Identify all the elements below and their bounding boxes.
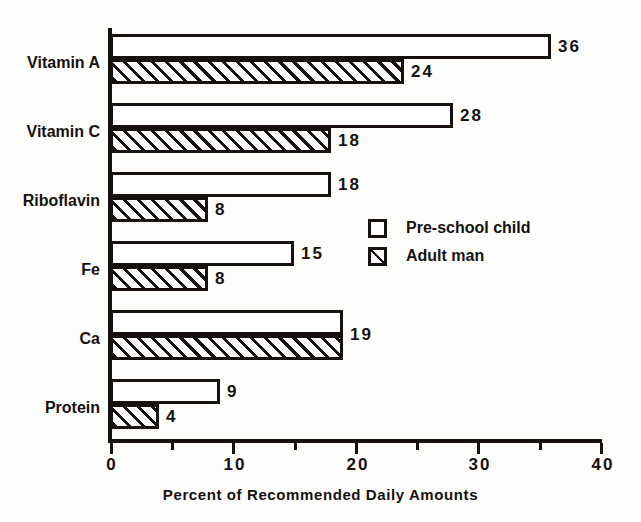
chart-legend: Pre-school child Adult man xyxy=(368,214,530,270)
legend-label-adult-man: Adult man xyxy=(406,247,484,265)
x-tick-major-40 xyxy=(600,443,603,454)
x-axis-title: Percent of Recommended Daily Amounts xyxy=(0,486,641,503)
x-tick-label-20: 20 xyxy=(347,455,370,475)
bar-ca-adult-man xyxy=(110,335,343,360)
bar-value-vitamin-a-adult-man: 24 xyxy=(411,62,434,82)
y-category-label-vitamin-a: Vitamin A xyxy=(27,54,100,72)
bar-value-protein-pre-school-child: 9 xyxy=(227,382,238,402)
x-tick-major-10 xyxy=(232,443,235,454)
y-category-label-fe: Fe xyxy=(81,261,100,279)
bar-riboflavin-adult-man xyxy=(110,197,208,222)
bar-vitamin-a-pre-school-child xyxy=(110,34,551,59)
bar-chart-plot: 0 10 20 30 40 Vitamin A Vitamin C Ribofl… xyxy=(0,0,641,522)
bar-value-fe-pre-school-child: 15 xyxy=(301,244,324,264)
bar-value-riboflavin-pre-school-child: 18 xyxy=(338,175,361,195)
bar-value-riboflavin-adult-man: 8 xyxy=(215,200,226,220)
bar-value-ca-shared: 19 xyxy=(350,325,373,345)
x-tick-major-30 xyxy=(477,443,480,454)
x-tick-label-0: 0 xyxy=(106,455,117,475)
x-tick-minor-25 xyxy=(416,443,419,450)
x-tick-minor-35 xyxy=(539,443,542,450)
hatched-square-icon xyxy=(368,247,387,266)
bar-value-vitamin-c-adult-man: 18 xyxy=(338,131,361,151)
bar-protein-adult-man xyxy=(110,404,159,429)
x-tick-minor-15 xyxy=(294,443,297,450)
bar-fe-pre-school-child xyxy=(110,241,294,266)
bar-value-vitamin-a-pre-school-child: 36 xyxy=(558,37,581,57)
legend-label-pre-school-child: Pre-school child xyxy=(406,219,530,237)
bar-protein-pre-school-child xyxy=(110,379,220,404)
legend-item-pre-school-child: Pre-school child xyxy=(368,214,530,242)
x-tick-major-20 xyxy=(355,443,358,454)
x-tick-label-30: 30 xyxy=(469,455,492,475)
y-category-label-protein: Protein xyxy=(45,399,100,417)
bar-vitamin-a-adult-man xyxy=(110,59,404,84)
bar-vitamin-c-adult-man xyxy=(110,128,331,153)
x-tick-label-40: 40 xyxy=(592,455,615,475)
y-category-label-ca: Ca xyxy=(80,330,100,348)
y-category-label-riboflavin: Riboflavin xyxy=(23,192,100,210)
x-tick-label-10: 10 xyxy=(224,455,247,475)
bar-vitamin-c-pre-school-child xyxy=(110,103,453,128)
bar-ca-pre-school-child xyxy=(110,310,343,335)
x-tick-major-0 xyxy=(110,443,113,454)
bar-fe-adult-man xyxy=(110,266,208,291)
bar-value-protein-adult-man: 4 xyxy=(166,407,177,427)
x-tick-minor-5 xyxy=(171,443,174,450)
bar-value-fe-adult-man: 8 xyxy=(215,269,226,289)
open-square-icon xyxy=(368,219,387,238)
chart-page: 0 10 20 30 40 Vitamin A Vitamin C Ribofl… xyxy=(0,0,641,522)
bar-riboflavin-pre-school-child xyxy=(110,172,331,197)
y-category-label-vitamin-c: Vitamin C xyxy=(27,123,101,141)
bar-value-vitamin-c-pre-school-child: 28 xyxy=(460,106,483,126)
legend-item-adult-man: Adult man xyxy=(368,242,530,270)
